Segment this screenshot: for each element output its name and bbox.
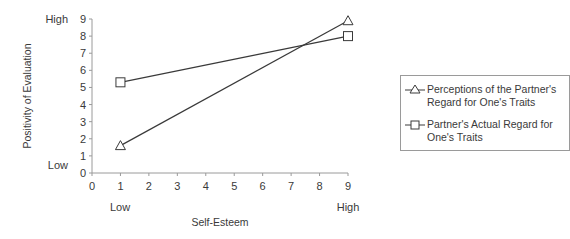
x-high-label: High: [337, 201, 360, 213]
legend-label: Partner's Actual Regard for One's Traits: [427, 118, 567, 144]
x-tick-label: 4: [203, 180, 209, 192]
x-tick-label: 8: [316, 180, 322, 192]
square-marker-icon: [405, 118, 425, 131]
x-axis-title: Self-Esteem: [191, 216, 248, 228]
x-tick-label: 1: [117, 180, 123, 192]
x-tick-label: 0: [89, 180, 95, 192]
y-tick-label: 0: [80, 167, 86, 179]
legend-label: Perceptions of the Partner's Regard for …: [427, 83, 567, 109]
y-low-label: Low: [48, 159, 68, 171]
x-tick-label: 5: [231, 180, 237, 192]
square-marker: [344, 32, 353, 41]
triangle-marker-icon: [405, 83, 425, 96]
x-low-label: Low: [110, 201, 130, 213]
x-tick-label: 2: [146, 180, 152, 192]
x-tick-label: 7: [288, 180, 294, 192]
square-marker: [116, 78, 125, 87]
data-series: [115, 16, 353, 150]
x-tick-label: 3: [174, 180, 180, 192]
y-tick-label: 7: [80, 47, 86, 59]
series-triangle: [115, 16, 353, 150]
triangle-marker: [343, 16, 353, 25]
legend: Perceptions of the Partner's Regard for …: [400, 75, 570, 151]
triangle-marker: [115, 141, 125, 150]
y-high-label: High: [45, 13, 68, 25]
y-axis-title: Positivity of Evaluation: [21, 43, 33, 148]
x-tick-label: 6: [260, 180, 266, 192]
y-tick-label: 8: [80, 30, 86, 42]
y-tick-label: 5: [80, 81, 86, 93]
series-square: [116, 32, 353, 87]
x-tick-label: 9: [345, 180, 351, 192]
axes: 01234567890123456789: [80, 13, 351, 192]
y-tick-label: 2: [80, 133, 86, 145]
y-tick-label: 4: [80, 99, 86, 111]
y-tick-label: 9: [80, 13, 86, 25]
y-tick-label: 1: [80, 150, 86, 162]
y-tick-label: 6: [80, 64, 86, 76]
y-tick-label: 3: [80, 116, 86, 128]
